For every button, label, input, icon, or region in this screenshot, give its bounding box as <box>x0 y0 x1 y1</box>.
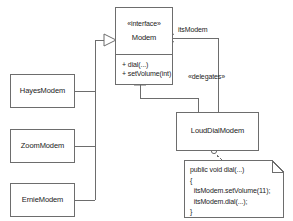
class-node-zoommodem[interactable]: ZoomModem <box>10 129 75 163</box>
class-name-label: ZoomModem <box>21 142 64 150</box>
interface-operations: + dial(...) + setVolume(int) <box>116 55 172 84</box>
note-code-text: public void dial(...) { itsModem.setVolu… <box>190 165 270 218</box>
operation-dial: + dial(...) <box>122 61 166 68</box>
interface-header: «interface» Modem <box>116 8 172 55</box>
class-node-hayesmodem[interactable]: HayesModem <box>10 74 75 108</box>
class-name-label: ErnieModem <box>22 196 64 204</box>
class-name-label: HayesModem <box>20 87 65 95</box>
edge-louddial-realization <box>140 85 198 112</box>
edge-label-itsmodem: itsModem <box>178 26 208 33</box>
operation-setvolume: + setVolume(int) <box>122 70 166 77</box>
class-node-erniemodem[interactable]: ErnieModem <box>10 183 75 217</box>
edge-label-delegates: «delegates» <box>188 73 225 80</box>
interface-stereotype-label: «interface» <box>127 20 161 27</box>
class-name-label: LoudDialModem <box>191 127 244 135</box>
diagram-canvas: «interface» Modem + dial(...) + setVolum… <box>0 0 293 221</box>
interface-name-label: Modem <box>132 34 157 42</box>
note-node-dial-implementation[interactable]: public void dial(...) { itsModem.setVolu… <box>184 160 284 218</box>
class-node-louddialmodem[interactable]: LoudDialModem <box>176 112 259 151</box>
interface-node-modem[interactable]: «interface» Modem + dial(...) + setVolum… <box>115 7 173 85</box>
